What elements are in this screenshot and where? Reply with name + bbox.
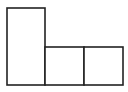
rectangles-diagram [0, 0, 128, 92]
tall-rectangle [7, 8, 45, 85]
square-left [45, 47, 84, 85]
square-right [84, 47, 123, 85]
